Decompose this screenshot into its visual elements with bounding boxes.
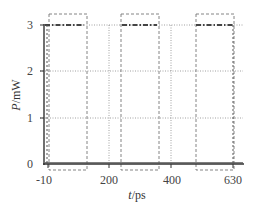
pulse-window-2: [121, 14, 159, 170]
x-tick-630: 630: [224, 173, 242, 187]
y-tick-2: 2: [27, 64, 33, 78]
pulse-window-1: [49, 14, 87, 170]
pulse-power-chart: 3 2 1 0 -10 200 400 630 t/ps P/mW: [0, 0, 256, 211]
x-tick-200: 200: [100, 173, 118, 187]
axes: [43, 24, 244, 165]
grid: [40, 25, 243, 165]
x-axis-title: t/ps: [128, 188, 146, 202]
ticks: [40, 25, 233, 168]
y-tick-0: 0: [27, 157, 33, 171]
pulse-windows: [49, 14, 234, 170]
pulse-window-3: [196, 14, 234, 170]
y-axis-title: P/mW: [9, 79, 23, 112]
x-tick-400: 400: [163, 173, 181, 187]
x-tick-neg10: -10: [36, 173, 52, 187]
y-tick-1: 1: [27, 111, 33, 125]
y-tick-3: 3: [27, 18, 33, 32]
pulse-edges: [47, 25, 233, 163]
